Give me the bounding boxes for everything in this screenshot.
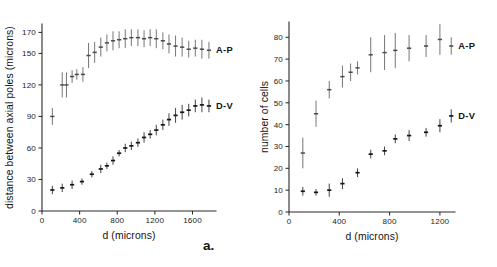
y-tick-label: 60 [27,144,37,153]
series-label-a-p: A-P [216,45,233,55]
panel-letter-a: a. [203,238,214,253]
x-axis-title: d (microns) [345,231,398,242]
y-axis-title: distance between axial poles (microns) [4,26,15,209]
y-tick-label: 170 [22,28,36,37]
series-label-d-v: D-V [216,101,234,111]
x-axis-title: d (microns) [102,230,155,241]
axis-frame [289,22,455,212]
figure-container: 0306090120150170040080012001600d (micron… [0,0,497,267]
x-tick-label: 1600 [183,216,202,225]
y-axis-title: number of cells [259,81,270,153]
panel-b: 0102030405060708004008001200d (microns)n… [248,0,497,267]
y-tick-label: 50 [274,99,284,108]
axis-frame [42,24,216,211]
y-tick-label: 40 [274,121,284,130]
y-tick-label: 10 [274,186,284,195]
y-tick-label: 20 [274,164,284,173]
x-tick-label: 1200 [146,216,165,225]
y-tick-label: 0 [278,208,283,217]
series-d-v [301,109,454,196]
series-label-d-v: D-V [458,111,476,121]
y-tick-label: 60 [274,77,284,86]
series-d-v [50,98,211,195]
series-label-a-p: A-P [458,41,475,51]
y-tick-label: 90 [27,112,37,121]
y-tick-label: 120 [22,81,36,90]
plot-a: 0306090120150170040080012001600d (micron… [0,0,248,267]
y-tick-label: 30 [274,142,284,151]
plot-b: 0102030405060708004008001200d (microns)n… [248,0,497,267]
y-tick-label: 0 [31,207,36,216]
x-tick-label: 400 [332,217,346,226]
x-tick-label: 800 [383,217,397,226]
x-tick-label: 800 [110,216,124,225]
y-tick-label: 150 [22,49,36,58]
x-tick-label: 400 [73,216,87,225]
y-tick-label: 80 [274,33,284,42]
panel-a: 0306090120150170040080012001600d (micron… [0,0,248,267]
series-a-p [301,24,454,168]
x-tick-label: 0 [287,217,292,226]
y-tick-label: 70 [274,55,284,64]
y-tick-label: 30 [27,175,37,184]
x-tick-label: 1200 [431,217,450,226]
x-tick-label: 0 [40,216,45,225]
